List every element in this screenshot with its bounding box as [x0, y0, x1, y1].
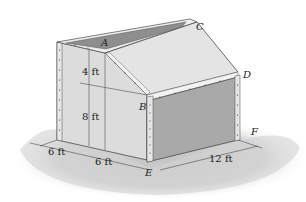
label-f: F: [250, 126, 259, 137]
dim-6ft-a: 6 ft: [48, 146, 65, 157]
label-a: A: [100, 37, 108, 48]
label-c: C: [196, 21, 204, 32]
label-b: B: [138, 101, 146, 112]
dim-6ft-b: 6 ft: [95, 156, 112, 167]
bin-diagram: A B C D E F 4 ft 8 ft 6 ft 6 ft 12 ft: [0, 0, 306, 202]
label-d: D: [242, 69, 251, 80]
dim-8ft: 8 ft: [82, 111, 99, 122]
dim-4ft: 4 ft: [82, 66, 99, 77]
dim-12ft: 12 ft: [209, 153, 233, 164]
label-e: E: [144, 167, 153, 178]
